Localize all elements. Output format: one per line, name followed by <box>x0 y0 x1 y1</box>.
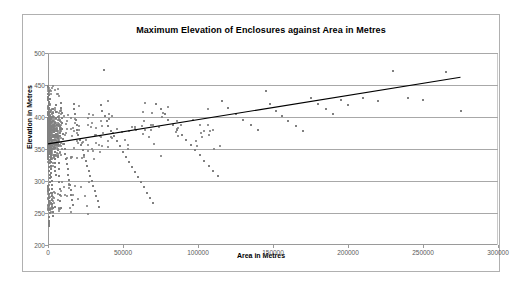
x-tick-label: 250000 <box>412 249 434 256</box>
y-tick-label: 400 <box>34 114 45 121</box>
trend-line <box>48 53 498 245</box>
chart-container: Maximum Elevation of Enclosures against … <box>22 14 500 272</box>
x-tick-mark <box>348 245 349 248</box>
y-tick-label: 250 <box>34 210 45 217</box>
plot-area: 200250300350400450500 050000100000150000… <box>48 53 498 245</box>
x-tick-label: 0 <box>46 249 50 256</box>
x-tick-label: 200000 <box>337 249 359 256</box>
x-tick-mark <box>423 245 424 248</box>
y-tick-label: 500 <box>34 50 45 57</box>
x-tick-label: 50000 <box>114 249 132 256</box>
y-tick-label: 200 <box>34 242 45 249</box>
chart-title: Maximum Elevation of Enclosures against … <box>23 25 499 35</box>
x-tick-mark <box>48 245 49 248</box>
x-tick-mark <box>123 245 124 248</box>
y-tick-label: 350 <box>34 146 45 153</box>
y-axis-label: Elevation in Metres <box>26 85 33 149</box>
y-tick-label: 300 <box>34 178 45 185</box>
x-tick-mark <box>273 245 274 248</box>
x-tick-mark <box>498 245 499 248</box>
x-tick-label: 100000 <box>187 249 209 256</box>
x-tick-label: 300000 <box>487 249 509 256</box>
x-tick-mark <box>198 245 199 248</box>
x-tick-label: 150000 <box>262 249 284 256</box>
y-tick-label: 450 <box>34 82 45 89</box>
